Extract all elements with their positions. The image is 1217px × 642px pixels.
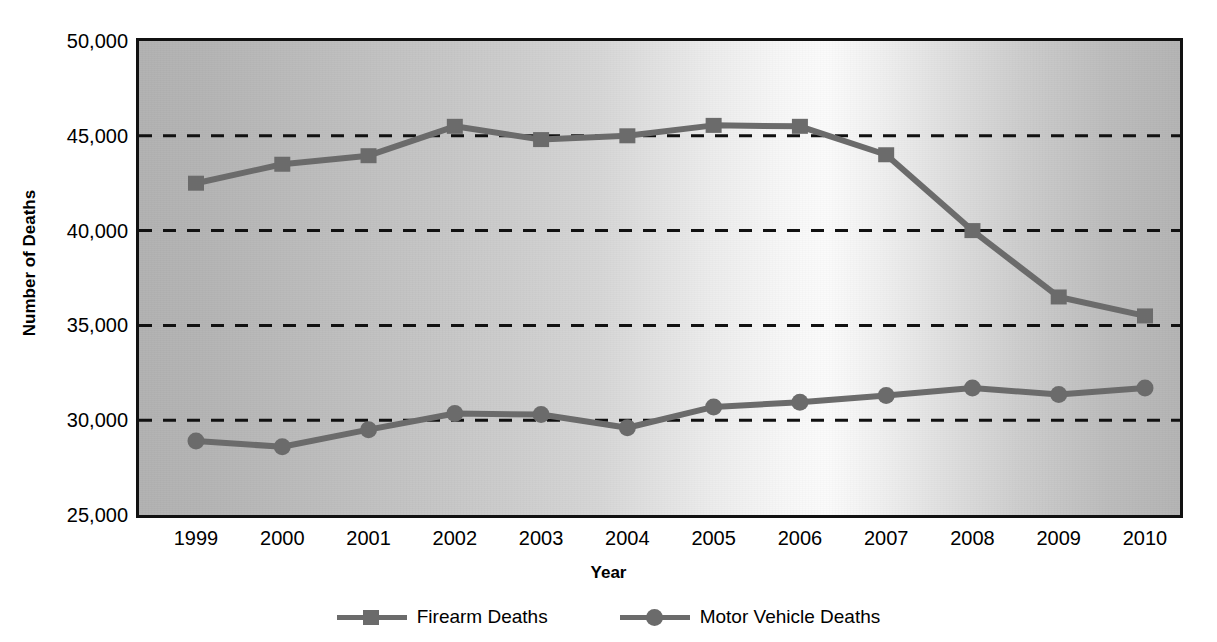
- x-tick-label: 2007: [841, 526, 931, 550]
- series-firearm-deaths: [188, 118, 1153, 324]
- x-tick-label: 2004: [582, 526, 672, 550]
- x-tick-label: 2002: [410, 526, 500, 550]
- data-point-marker: [446, 405, 463, 422]
- series-line: [196, 388, 1145, 447]
- data-point-marker: [274, 157, 290, 172]
- legend-entry-motor-vehicle-deaths: Motor Vehicle Deaths: [620, 606, 881, 628]
- data-point-marker: [878, 387, 895, 404]
- x-tick-label: 2001: [324, 526, 414, 550]
- chart-legend: Firearm Deaths Motor Vehicle Deaths: [0, 600, 1217, 634]
- legend-swatch-square-icon: [337, 606, 407, 628]
- x-tick-label: 2009: [1014, 526, 1104, 550]
- line-chart-figure: Number of Deaths 25,00030,00035,00040,00…: [0, 0, 1217, 642]
- legend-entry-firearm-deaths: Firearm Deaths: [337, 606, 548, 628]
- y-tick-label: 25,000: [8, 505, 128, 525]
- data-point-marker: [792, 119, 808, 134]
- data-point-marker: [533, 132, 549, 147]
- y-tick-label: 35,000: [8, 315, 128, 335]
- y-tick-label: 45,000: [8, 126, 128, 146]
- data-point-marker: [964, 379, 981, 396]
- series-motor-vehicle-deaths: [188, 379, 1154, 455]
- y-tick-label: 40,000: [8, 221, 128, 241]
- x-axis-tick-labels: 1999200020012002200320042005200620072008…: [0, 526, 1217, 554]
- y-tick-label: 50,000: [8, 31, 128, 51]
- data-point-marker: [964, 223, 980, 238]
- x-tick-label: 2010: [1100, 526, 1190, 550]
- x-tick-label: 2006: [755, 526, 845, 550]
- data-point-marker: [360, 421, 377, 438]
- data-point-marker: [1137, 379, 1154, 396]
- series-line: [196, 125, 1145, 316]
- data-point-marker: [1051, 289, 1067, 304]
- x-tick-label: 2005: [669, 526, 759, 550]
- data-point-marker: [188, 176, 204, 191]
- data-point-marker: [533, 406, 550, 423]
- data-point-marker: [791, 394, 808, 411]
- data-point-marker: [619, 128, 635, 143]
- legend-swatch-circle-icon: [620, 606, 690, 628]
- data-point-marker: [188, 433, 205, 450]
- data-point-marker: [878, 147, 894, 162]
- x-tick-label: 1999: [151, 526, 241, 550]
- data-point-marker: [1137, 308, 1153, 323]
- data-point-marker: [447, 119, 463, 134]
- data-point-marker: [361, 148, 377, 163]
- x-tick-label: 2008: [927, 526, 1017, 550]
- x-axis-title: Year: [0, 563, 1217, 583]
- data-point-marker: [1050, 386, 1067, 403]
- x-tick-label: 2003: [496, 526, 586, 550]
- data-point-marker: [705, 398, 722, 415]
- data-point-marker: [706, 118, 722, 133]
- legend-circle-marker-icon: [646, 609, 663, 626]
- legend-square-marker-icon: [363, 610, 379, 625]
- legend-label-firearm-deaths: Firearm Deaths: [417, 606, 548, 628]
- y-tick-label: 30,000: [8, 410, 128, 430]
- x-tick-label: 2000: [237, 526, 327, 550]
- plot-svg: [139, 41, 1180, 515]
- plot-area: [136, 38, 1183, 518]
- legend-label-motor-vehicle-deaths: Motor Vehicle Deaths: [700, 606, 881, 628]
- data-point-marker: [274, 438, 291, 455]
- data-point-marker: [619, 419, 636, 436]
